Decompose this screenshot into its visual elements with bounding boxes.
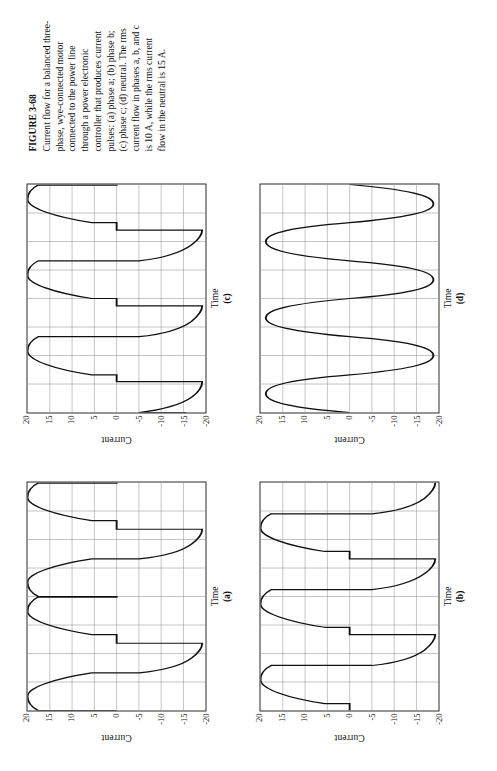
y-tick: -20 — [202, 415, 211, 426]
plot-b-y-ticks: 20 15 10 5 0 -5 -10 -15 -20 — [259, 711, 439, 731]
y-tick: 20 — [22, 713, 31, 722]
plot-c-y-axis-label: Current — [26, 433, 206, 445]
y-tick: 5 — [89, 713, 98, 717]
y-tick: 10 — [300, 415, 309, 424]
y-tick: 15 — [277, 713, 286, 722]
plot-b-labels: Time (b) — [439, 481, 466, 711]
y-tick: 15 — [277, 415, 286, 424]
plot-b-frame — [259, 481, 439, 711]
y-tick: -10 — [157, 713, 166, 724]
y-tick: -15 — [179, 415, 188, 426]
plot-d-body: Current 20 15 10 5 0 -5 -10 -15 -20 — [259, 183, 439, 445]
y-tick: -5 — [134, 415, 143, 422]
y-tick: -5 — [367, 415, 376, 422]
y-tick: 5 — [89, 415, 98, 419]
plot-b-letter: (b) — [453, 481, 466, 711]
plot-d-svg — [260, 184, 438, 412]
y-tick: 0 — [112, 713, 121, 717]
plot-c-svg — [27, 184, 205, 412]
plot-b-x-axis-label: Time — [442, 481, 453, 711]
plot-c-x-axis-label: Time — [209, 183, 220, 413]
plot-d-x-axis-label: Time — [442, 183, 453, 413]
y-tick: -15 — [412, 415, 421, 426]
plot-b-y-axis-label: Current — [259, 731, 439, 743]
plot-a-frame — [26, 481, 206, 711]
plot-a-svg — [27, 482, 205, 710]
figure-caption: FIGURE 3-68 Current flow for a balanced … — [26, 19, 167, 151]
plot-d-letter: (d) — [453, 183, 466, 413]
y-tick: 20 — [255, 713, 264, 722]
plot-c-body: Current 20 15 10 5 0 -5 -10 -15 -20 — [26, 183, 206, 445]
plot-panel-d: Current 20 15 10 5 0 -5 -10 -15 -20 — [259, 183, 466, 445]
y-tick: 10 — [67, 713, 76, 722]
figure-plot-grid: Current 20 15 10 5 0 -5 -10 -15 -20 — [26, 183, 466, 743]
waveform-b — [260, 482, 435, 710]
y-tick: -5 — [367, 713, 376, 720]
plot-a-labels: Time (a) — [206, 481, 233, 711]
y-tick: -15 — [412, 713, 421, 724]
page-content: Current 20 15 10 5 0 -5 -10 -15 -20 — [0, 0, 497, 771]
y-tick: 0 — [345, 415, 354, 419]
plot-panel-a: Current 20 15 10 5 0 -5 -10 -15 -20 — [26, 481, 233, 743]
y-tick: 0 — [112, 415, 121, 419]
waveform-a — [27, 482, 202, 710]
plot-d-y-ticks: 20 15 10 5 0 -5 -10 -15 -20 — [259, 413, 439, 433]
plot-b-body: Current 20 15 10 5 0 -5 -10 -15 -20 — [259, 481, 439, 743]
plot-d-labels: Time (d) — [439, 183, 466, 413]
y-tick: -15 — [179, 713, 188, 724]
page-stage: Current 20 15 10 5 0 -5 -10 -15 -20 — [0, 0, 497, 771]
waveform-d — [265, 184, 433, 412]
plot-c-y-ticks: 20 15 10 5 0 -5 -10 -15 -20 — [26, 413, 206, 433]
y-tick: 5 — [322, 415, 331, 419]
y-tick: -10 — [390, 713, 399, 724]
plot-a-y-axis-label: Current — [26, 731, 206, 743]
y-tick: -20 — [202, 713, 211, 724]
y-tick: 20 — [255, 415, 264, 424]
y-tick: -20 — [435, 415, 444, 426]
y-tick: -20 — [435, 713, 444, 724]
plot-a-y-ticks: 20 15 10 5 0 -5 -10 -15 -20 — [26, 711, 206, 731]
waveform-c — [27, 184, 202, 412]
plot-panel-b: Current 20 15 10 5 0 -5 -10 -15 -20 — [259, 481, 466, 743]
figure-number-label: FIGURE 3-68 — [26, 19, 39, 151]
plot-b-svg — [260, 482, 438, 710]
plot-c-frame — [26, 183, 206, 413]
y-tick: 15 — [44, 415, 53, 424]
y-tick: 10 — [67, 415, 76, 424]
y-tick: 20 — [22, 415, 31, 424]
y-tick: -10 — [157, 415, 166, 426]
plot-a-x-axis-label: Time — [209, 481, 220, 711]
plot-c-letter: (c) — [220, 183, 233, 413]
plot-panel-c: Current 20 15 10 5 0 -5 -10 -15 -20 — [26, 183, 233, 445]
gridlines-b — [260, 482, 438, 710]
plot-c-labels: Time (c) — [206, 183, 233, 413]
plot-a-letter: (a) — [220, 481, 233, 711]
y-tick: 5 — [322, 713, 331, 717]
y-tick: 15 — [44, 713, 53, 722]
y-tick: 10 — [300, 713, 309, 722]
y-tick: -5 — [134, 713, 143, 720]
plot-d-frame — [259, 183, 439, 413]
y-tick: -10 — [390, 415, 399, 426]
figure-caption-text: Current flow for a balanced three-phase,… — [40, 20, 166, 151]
plot-a-body: Current 20 15 10 5 0 -5 -10 -15 -20 — [26, 481, 206, 743]
y-tick: 0 — [345, 713, 354, 717]
plot-d-y-axis-label: Current — [259, 433, 439, 445]
